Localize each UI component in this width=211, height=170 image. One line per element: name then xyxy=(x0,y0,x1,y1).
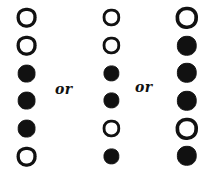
circle-cell xyxy=(92,87,130,115)
open-circle-icon xyxy=(102,8,121,27)
filled-circle-icon xyxy=(175,61,199,85)
open-circle-icon xyxy=(175,6,199,30)
circle-cell xyxy=(166,87,208,115)
circle-cell xyxy=(92,142,130,170)
circle-cell xyxy=(92,32,130,60)
filled-circle-icon xyxy=(102,64,121,83)
open-circle-icon xyxy=(102,36,121,55)
or-separator-2: or xyxy=(135,80,153,94)
circle-cell xyxy=(166,32,208,60)
filled-circle-icon xyxy=(16,90,37,111)
filled-circle-icon xyxy=(102,91,121,110)
circle-cell xyxy=(166,59,208,87)
filled-circle-icon xyxy=(175,144,199,168)
circle-cell xyxy=(6,4,48,32)
filled-circle-icon xyxy=(175,89,199,113)
filled-circle-icon xyxy=(175,34,199,58)
circle-cell xyxy=(6,87,48,115)
circle-cell xyxy=(6,115,48,143)
filled-circle-icon xyxy=(16,63,37,84)
circle-cell xyxy=(92,115,130,143)
circle-cell xyxy=(6,32,48,60)
circle-pattern-figure: or or xyxy=(0,0,211,170)
open-circle-icon xyxy=(16,35,37,56)
circle-column-2 xyxy=(92,0,130,170)
circle-cell xyxy=(166,4,208,32)
open-circle-icon xyxy=(175,117,199,141)
circle-column-1 xyxy=(6,0,48,170)
circle-cell xyxy=(92,4,130,32)
filled-circle-icon xyxy=(102,147,121,166)
circle-cell xyxy=(6,59,48,87)
open-circle-icon xyxy=(102,119,121,138)
filled-circle-icon xyxy=(16,118,37,139)
or-separator-1: or xyxy=(55,82,73,96)
circle-cell xyxy=(92,59,130,87)
circle-cell xyxy=(166,142,208,170)
open-circle-icon xyxy=(16,146,37,167)
open-circle-icon xyxy=(16,7,37,28)
circle-cell xyxy=(166,115,208,143)
circle-column-3 xyxy=(166,0,208,170)
circle-cell xyxy=(6,142,48,170)
